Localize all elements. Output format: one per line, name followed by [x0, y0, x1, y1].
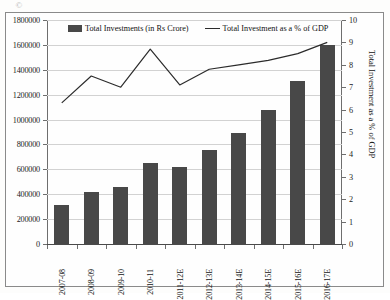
y-axis-tick-label: 200000 [17, 215, 40, 224]
secondary-y-axis-tick [342, 42, 346, 43]
x-axis-tick [165, 245, 166, 249]
x-axis-tick [136, 245, 137, 249]
x-axis-tick [224, 245, 225, 249]
y-axis-tick [43, 194, 47, 195]
y-axis-tick [43, 219, 47, 220]
secondary-y-axis-tick [342, 87, 346, 88]
secondary-y-axis-tick-label: 3 [349, 172, 353, 181]
secondary-y-axis-tick [342, 132, 346, 133]
secondary-y-axis-tick-label: 8 [349, 60, 353, 69]
secondary-y-axis-tick [342, 222, 346, 223]
x-axis-tick [342, 245, 343, 249]
bar [202, 150, 217, 244]
y-axis-tick-label: 1400000 [13, 65, 40, 74]
left-axis-line [47, 20, 48, 245]
gridline [47, 70, 342, 71]
x-axis-tick [283, 245, 284, 249]
y-axis-tick [43, 70, 47, 71]
y-axis-tick-label: 0 [36, 240, 40, 249]
x-axis-tick [195, 245, 196, 249]
x-axis-tick [254, 245, 255, 249]
bar [84, 192, 99, 244]
bar [143, 163, 158, 244]
gridline [47, 20, 342, 21]
y-axis-tick [43, 95, 47, 96]
x-axis-tick [106, 245, 107, 249]
x-axis-tick-label: 2011-12E [176, 269, 185, 299]
x-axis-tick-label: 2010-11 [146, 269, 155, 295]
secondary-y-axis-tick-label: 1 [349, 217, 353, 226]
secondary-y-axis-tick [342, 154, 346, 155]
bar [54, 205, 69, 244]
secondary-y-axis-tick-label: 5 [349, 128, 353, 137]
secondary-y-axis-tick-label: 4 [349, 150, 353, 159]
secondary-y-axis-tick [342, 199, 346, 200]
bar [172, 167, 187, 244]
y-axis-tick [43, 20, 47, 21]
y-axis-tick-label: 400000 [17, 190, 40, 199]
y-axis-tick-label: 600000 [17, 165, 40, 174]
secondary-y-axis-tick-label: 6 [349, 105, 353, 114]
bar [290, 81, 305, 244]
y-axis-tick-label: 1800000 [13, 16, 40, 25]
x-axis-tick-label: 2012-13E [205, 269, 214, 300]
x-axis-tick [77, 245, 78, 249]
y-axis-tick [43, 144, 47, 145]
secondary-y-axis-tick [342, 177, 346, 178]
y-axis-tick [43, 45, 47, 46]
bar [320, 45, 335, 244]
x-axis-tick-label: 2015-16E [294, 269, 303, 300]
x-axis-tick [47, 245, 48, 249]
bar [231, 133, 246, 244]
x-axis-tick-label: 2008-09 [87, 269, 96, 295]
x-axis-tick-label: 2014-15E [264, 269, 273, 300]
bar [113, 187, 128, 244]
scan-artifact-mark: © [14, 0, 24, 11]
y-axis-tick-label: 1600000 [13, 40, 40, 49]
secondary-y-axis-tick-label: 2 [349, 195, 353, 204]
secondary-y-axis-tick-label: 10 [349, 16, 357, 25]
y-axis-tick-label: 800000 [17, 140, 40, 149]
y-axis-tick-label: 1000000 [13, 115, 40, 124]
x-axis-tick [313, 245, 314, 249]
secondary-y-axis-tick [342, 110, 346, 111]
secondary-y-axis-tick-label: 9 [349, 38, 353, 47]
secondary-y-axis-title: Total Investment as a % of GDP [362, 50, 376, 158]
x-axis-tick-label: 2013-14E [235, 269, 244, 300]
x-axis-tick-label: 2009-10 [117, 269, 126, 295]
y-axis-tick [43, 120, 47, 121]
secondary-y-axis-tick [342, 65, 346, 66]
plot-area: 0200000400000600000800000100000012000001… [47, 20, 342, 245]
x-axis-tick-label: 2007-08 [58, 269, 67, 295]
y-axis-tick [43, 169, 47, 170]
secondary-y-axis-tick-label: 7 [349, 83, 353, 92]
secondary-y-axis-tick-label: 0 [349, 240, 353, 249]
bar [261, 110, 276, 244]
y-axis-tick-label: 1200000 [13, 90, 40, 99]
x-axis-tick-label: 2016-17E [323, 269, 332, 300]
secondary-y-axis-tick [342, 20, 346, 21]
gridline [47, 45, 342, 46]
